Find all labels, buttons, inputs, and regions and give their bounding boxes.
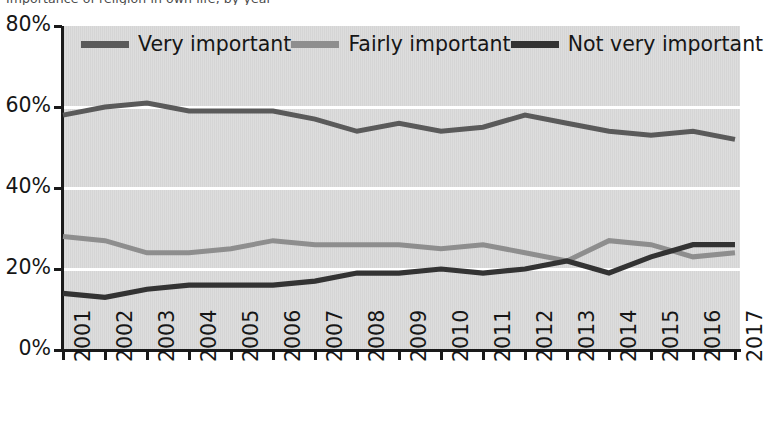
series-line-very-important [63,103,735,139]
series-line-fairly-important [63,237,735,261]
